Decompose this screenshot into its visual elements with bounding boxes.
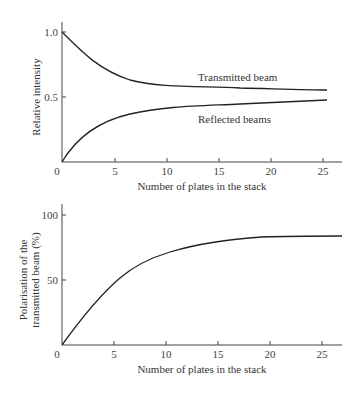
top-xtick-label-0: 0	[54, 165, 60, 177]
transmitted-beam-curve	[62, 32, 327, 90]
top-y-axis-label: Relative intensity	[30, 58, 42, 136]
top-ytick-label-05: 0.5	[44, 91, 58, 103]
top-x-axis-label: Number of plates in the stack	[137, 180, 267, 192]
top-xtick-label-25: 25	[318, 165, 330, 177]
bottom-y-axis-label-line2: transmitted beam (%)	[29, 232, 42, 328]
top-ytick-label-1: 1.0	[44, 26, 58, 38]
bottom-ytick-label-100: 100	[42, 209, 59, 221]
bottom-x-axis-label: Number of plates in the stack	[137, 363, 267, 375]
top-xtick-label-5: 5	[112, 165, 118, 177]
bottom-y-axis-label-line1: Polarisation of the	[17, 240, 29, 321]
bottom-ytick-label-50: 50	[47, 274, 59, 286]
transmitted-beam-annotation: Transmitted beam	[198, 71, 278, 83]
bottom-xtick-label-0: 0	[54, 348, 60, 360]
bottom-xtick-label-5: 5	[111, 348, 117, 360]
bottom-xtick-label-25: 25	[317, 348, 329, 360]
reflected-beams-annotation: Reflected beams	[198, 113, 271, 125]
bottom-chart: 100 50 0 5 10 15 20 25 Number of plates …	[17, 204, 342, 375]
top-xtick-label-10: 10	[162, 165, 174, 177]
reflected-beams-curve	[62, 100, 327, 162]
bottom-xtick-label-10: 10	[161, 348, 173, 360]
top-xtick-label-15: 15	[214, 165, 226, 177]
bottom-xtick-label-20: 20	[265, 348, 277, 360]
polarisation-curve	[62, 236, 342, 345]
figure: 1.0 0.5 0 5 10 15 20 25 Number of plates…	[0, 0, 364, 394]
top-chart: 1.0 0.5 0 5 10 15 20 25 Number of plates…	[30, 22, 342, 192]
top-xtick-label-20: 20	[266, 165, 278, 177]
bottom-xtick-label-15: 15	[213, 348, 225, 360]
